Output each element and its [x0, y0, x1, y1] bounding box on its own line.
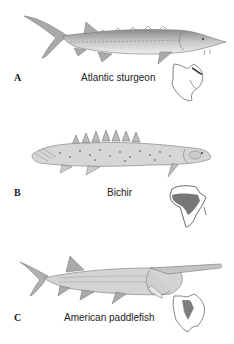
caption-bichir: Bichir [107, 187, 132, 198]
panel-b: B Bichir [0, 115, 234, 230]
panel-letter-c: C [14, 312, 21, 323]
range-map-north-america-east [168, 60, 208, 105]
panel-letter-a: A [14, 72, 21, 83]
bichir-illustration [0, 125, 234, 185]
caption-american-paddlefish: American paddlefish [64, 312, 155, 323]
range-map-north-america-mississippi [170, 292, 210, 334]
panel-letter-b: B [14, 187, 21, 198]
range-map-africa [166, 183, 210, 229]
panel-c: C American paddlefish [0, 230, 234, 344]
caption-atlantic-sturgeon: Atlantic sturgeon [81, 72, 156, 83]
panel-a: A Atlantic sturgeon [0, 0, 234, 115]
